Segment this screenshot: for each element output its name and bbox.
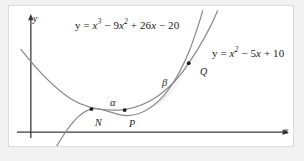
point-marker-N (90, 107, 94, 111)
x-axis-label: x (284, 126, 288, 136)
figure-frame: y = x3 − 9x2 + 26x − 20 y = x2 − 5x + 10… (8, 5, 294, 147)
point-label-Q: Q (200, 66, 207, 77)
point-marker-P (123, 108, 127, 112)
equation-label-cubic: y = x3 − 9x2 + 26x − 20 (75, 19, 179, 31)
y-axis-label: y (33, 14, 37, 24)
region-label-beta: β (162, 77, 167, 88)
point-marker-Q (187, 61, 191, 65)
figure-page: y = x3 − 9x2 + 26x − 20 y = x2 − 5x + 10… (0, 0, 304, 161)
equation-label-parabola: y = x2 − 5x + 10 (212, 47, 284, 59)
point-label-P: P (129, 118, 135, 129)
point-label-N: N (95, 117, 102, 128)
region-label-alpha: α (110, 97, 116, 108)
